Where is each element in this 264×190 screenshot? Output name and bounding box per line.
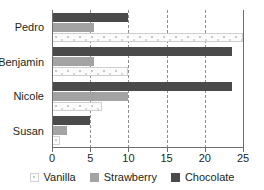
x-axis-tick-label: 20 (199, 153, 211, 164)
legend-label: Chocolate (185, 172, 235, 183)
x-axis-tick-label: 10 (122, 153, 134, 164)
bar-chart: PedroBenjaminNicoleSusan 0510152025 Vani… (0, 0, 264, 190)
y-axis-label: Benjamin (0, 57, 44, 68)
y-axis-label: Nicole (13, 91, 44, 102)
bar-vanilla (52, 33, 243, 42)
bar-strawberry (52, 57, 94, 66)
bar-chocolate (52, 116, 90, 125)
bar-vanilla (52, 67, 128, 76)
legend-item-strawberry[interactable]: Strawberry (90, 172, 157, 183)
vanilla-swatch (30, 173, 39, 182)
bar-vanilla (52, 102, 102, 111)
y-axis-line (52, 10, 53, 148)
plot-right-border (243, 10, 244, 148)
x-axis-tick-label: 25 (237, 153, 249, 164)
bar-group (52, 114, 243, 149)
legend: VanillaStrawberryChocolate (0, 168, 264, 186)
bar-group (52, 79, 243, 114)
plot-area (52, 10, 243, 148)
legend-item-chocolate[interactable]: Chocolate (171, 172, 235, 183)
y-axis-label: Pedro (15, 22, 44, 33)
bar-vanilla (52, 136, 60, 145)
legend-label: Strawberry (104, 172, 157, 183)
x-axis-tick-label: 0 (49, 153, 55, 164)
bar-strawberry (52, 126, 67, 135)
x-axis: 0510152025 (52, 148, 243, 164)
bar-strawberry (52, 92, 128, 101)
bar-chocolate (52, 47, 232, 56)
x-axis-tick-label: 5 (87, 153, 93, 164)
bar-chocolate (52, 13, 128, 22)
y-axis-label: Susan (13, 126, 44, 137)
legend-item-vanilla[interactable]: Vanilla (30, 172, 76, 183)
x-axis-tick-label: 15 (160, 153, 172, 164)
bar-strawberry (52, 23, 94, 32)
bar-group (52, 10, 243, 45)
chocolate-swatch (171, 173, 180, 182)
bar-chocolate (52, 82, 232, 91)
bar-group (52, 45, 243, 80)
strawberry-swatch (90, 173, 99, 182)
legend-label: Vanilla (44, 172, 76, 183)
y-axis-labels: PedroBenjaminNicoleSusan (0, 10, 48, 148)
